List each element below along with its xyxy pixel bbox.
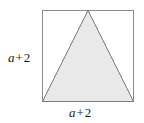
- left-side-label: a+2: [8, 51, 30, 64]
- left-label-operator: +: [15, 50, 24, 65]
- bottom-label-operator: +: [76, 105, 85, 120]
- bottom-label-number: 2: [85, 105, 92, 120]
- bottom-label-variable: a: [69, 105, 76, 120]
- bottom-side-label: a+2: [69, 106, 91, 119]
- left-label-number: 2: [24, 50, 31, 65]
- geometry-figure: a+2 a+2: [0, 0, 144, 123]
- left-label-variable: a: [8, 50, 15, 65]
